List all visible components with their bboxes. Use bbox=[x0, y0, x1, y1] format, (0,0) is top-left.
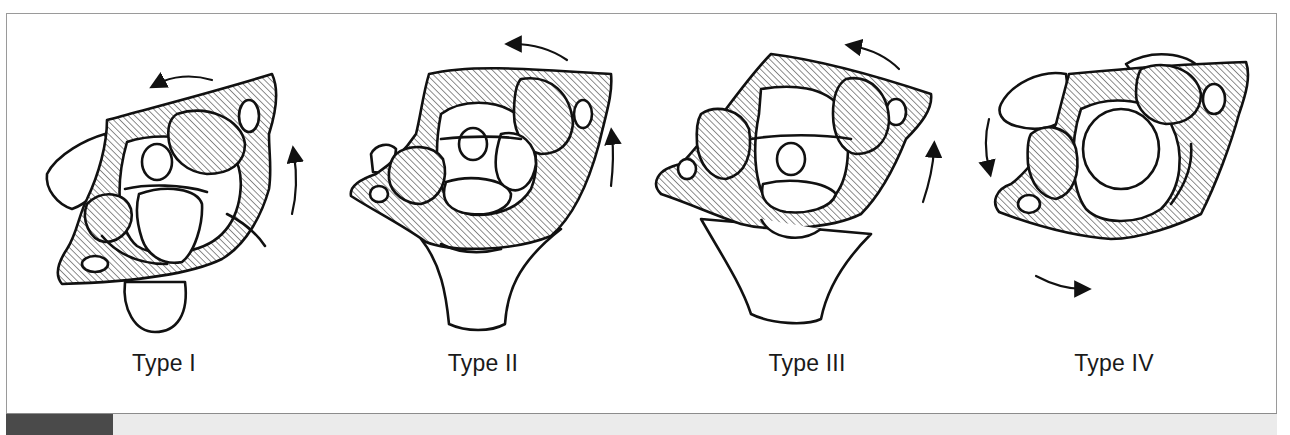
vertebra-type-3-illustration bbox=[641, 14, 961, 354]
vertebra-type-2-illustration bbox=[321, 14, 641, 354]
panel-label-type-1: Type I bbox=[4, 350, 324, 377]
panel-label-type-4: Type IV bbox=[954, 350, 1274, 377]
figure-frame: Type I Type II bbox=[6, 13, 1277, 413]
panel-label-type-3: Type III bbox=[647, 350, 967, 377]
vertebra-type-4-illustration bbox=[961, 14, 1281, 354]
caption-bar-block bbox=[6, 414, 113, 435]
panel-type-1: Type I bbox=[7, 14, 327, 414]
vertebra-type-1-illustration bbox=[7, 14, 327, 354]
panel-type-3: Type III bbox=[641, 14, 961, 414]
panel-label-type-2: Type II bbox=[323, 350, 643, 377]
panel-type-4: Type IV bbox=[961, 14, 1281, 414]
panel-type-2: Type II bbox=[321, 14, 641, 414]
caption-bar bbox=[6, 413, 1277, 435]
